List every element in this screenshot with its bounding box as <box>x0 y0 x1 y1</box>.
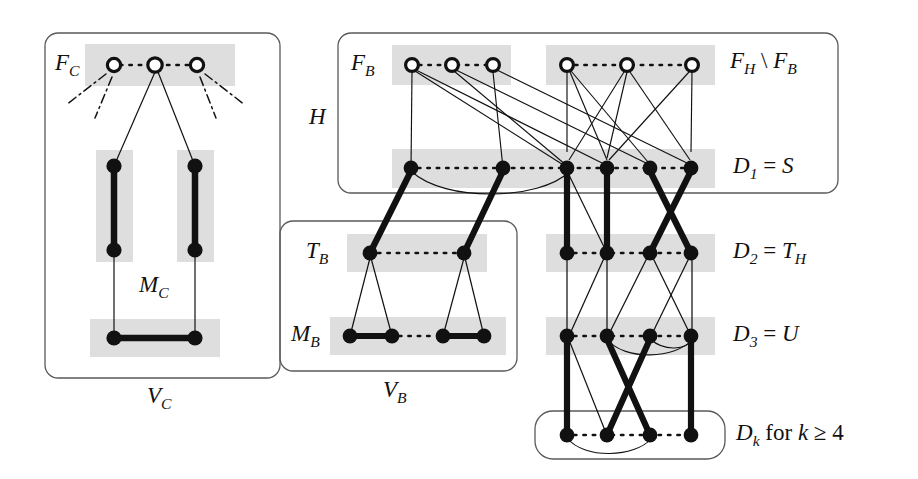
node-d2-1 <box>560 246 575 261</box>
label-d3: D3 = U <box>733 321 799 351</box>
node-f-b-1 <box>406 59 419 72</box>
node-d3-2 <box>600 329 615 344</box>
label-m-b: MB <box>291 321 320 351</box>
edge-fh2-d1f <box>630 72 690 160</box>
node-mc-mid-left <box>106 242 121 257</box>
node-d2-3 <box>643 246 658 261</box>
label-f-h-minus-f-b: FH \ FB <box>730 48 797 78</box>
figure-canvas: FC MC VC FB H FH \ FB D1 = S TB D2 = TH … <box>0 0 918 479</box>
node-m-b-3 <box>436 329 451 344</box>
node-f-h-2 <box>621 59 634 72</box>
node-d1-2 <box>496 161 511 176</box>
node-d-k-4 <box>684 428 699 443</box>
node-m-b-1 <box>343 329 358 344</box>
node-mc-mid-right <box>187 242 202 257</box>
label-f-b: FB <box>351 50 375 80</box>
node-f-b-2 <box>446 59 459 72</box>
node-f-c-3 <box>190 58 203 71</box>
label-h: H <box>309 104 326 130</box>
label-v-b: VB <box>383 377 407 407</box>
label-d1: D1 = S <box>733 153 793 183</box>
label-v-c: VC <box>147 383 171 413</box>
node-f-h-1 <box>561 59 574 72</box>
node-d1-1 <box>404 161 419 176</box>
node-d-k-1 <box>560 428 575 443</box>
node-mc-top-right <box>187 158 202 173</box>
label-t-b: TB <box>306 238 328 268</box>
node-d2-2 <box>600 246 615 261</box>
node-d1-5 <box>643 161 658 176</box>
node-d3-3 <box>643 329 658 344</box>
label-d-k: Dk for k ≥ 4 <box>736 420 844 450</box>
node-f-b-3 <box>487 59 500 72</box>
edge-fh2-d1c <box>569 72 624 160</box>
node-d1-3 <box>560 161 575 176</box>
edge-fc-mid-right <box>158 72 195 166</box>
node-d2-4 <box>684 246 699 261</box>
node-f-h-3 <box>686 59 699 72</box>
label-m-c: MC <box>139 272 169 302</box>
node-f-c-1 <box>107 58 120 71</box>
node-t-b-1 <box>363 246 378 261</box>
node-mc-top-left <box>106 158 121 173</box>
node-d3-4 <box>684 329 699 344</box>
label-f-c: FC <box>55 50 79 80</box>
edge-fh3-d1d <box>609 72 689 160</box>
node-t-b-2 <box>457 246 472 261</box>
node-m-b-4 <box>477 329 492 344</box>
node-d-k-3 <box>643 428 658 443</box>
edge-fh1-d1d <box>570 72 607 160</box>
node-d1-6 <box>684 161 699 176</box>
label-d2: D2 = TH <box>733 238 806 268</box>
node-d1-4 <box>600 161 615 176</box>
edge-fc-mid-left <box>114 72 155 166</box>
node-d3-1 <box>560 329 575 344</box>
node-mc-bot-left <box>106 330 121 345</box>
node-d-k-2 <box>600 428 615 443</box>
node-f-c-2 <box>148 58 162 72</box>
node-mc-bot-right <box>187 330 202 345</box>
node-m-b-2 <box>385 329 400 344</box>
